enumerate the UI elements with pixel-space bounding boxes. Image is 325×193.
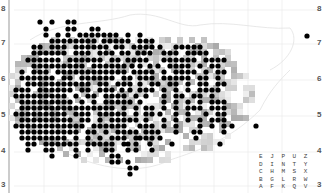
observation-dot	[49, 81, 54, 86]
observation-dot	[43, 69, 48, 74]
observation-dot	[85, 135, 90, 140]
observation-dot	[31, 141, 36, 146]
observation-dot	[37, 135, 42, 140]
observation-dot	[197, 99, 202, 104]
observation-dot	[79, 38, 84, 43]
observation-dot	[43, 81, 48, 86]
observation-dot	[43, 50, 48, 55]
observation-dot	[13, 93, 18, 98]
observation-dot	[173, 87, 178, 92]
observation-dot	[61, 99, 66, 104]
observation-dot	[43, 123, 48, 128]
observation-dot	[19, 99, 24, 104]
observation-dot	[73, 38, 78, 43]
observation-dot	[197, 75, 202, 80]
observation-dot	[147, 63, 152, 68]
observation-dot	[131, 69, 136, 74]
observation-dot	[85, 75, 90, 80]
observation-dot	[61, 135, 66, 140]
observation-dot	[143, 69, 148, 74]
y-tick-label: 5	[1, 110, 5, 119]
observation-dot	[115, 111, 120, 116]
observation-dot	[133, 147, 138, 152]
observation-dot	[109, 153, 114, 158]
observation-dot	[115, 63, 120, 68]
observation-dot	[91, 141, 96, 146]
observation-dot	[179, 57, 184, 62]
observation-dot	[37, 81, 42, 86]
observation-dot	[121, 75, 126, 80]
observation-dot	[221, 105, 226, 110]
observation-dot	[137, 38, 142, 43]
observation-dot	[121, 135, 126, 140]
observation-dot	[73, 141, 78, 146]
observation-dot	[49, 147, 54, 152]
observation-dot	[149, 44, 154, 49]
observation-dot	[185, 63, 190, 68]
observation-dot	[91, 44, 96, 49]
observation-dot	[19, 123, 24, 128]
observation-dot	[67, 38, 72, 43]
observation-dot	[191, 57, 196, 62]
observation-dot	[173, 117, 178, 122]
observation-dot	[37, 50, 42, 55]
observation-dot	[79, 75, 84, 80]
observation-dot	[173, 44, 178, 49]
observation-dot	[109, 141, 114, 146]
observation-dot	[73, 123, 78, 128]
observation-dot	[173, 75, 178, 80]
observation-dot	[61, 141, 66, 146]
observation-dot	[149, 111, 154, 116]
observation-dot	[101, 38, 106, 43]
observation-dot	[143, 44, 148, 49]
observation-dot	[209, 57, 214, 62]
legend-row: C H M S X	[259, 168, 309, 176]
observation-dot	[217, 141, 222, 146]
observation-dot	[185, 44, 190, 49]
observation-dot	[173, 123, 178, 128]
observation-dot	[25, 93, 30, 98]
observation-dot	[209, 63, 214, 68]
observation-dot	[43, 141, 48, 146]
observation-dot	[97, 111, 102, 116]
observation-dot	[115, 153, 120, 158]
observation-dot	[157, 135, 162, 140]
observation-dot	[143, 57, 148, 62]
observation-dot	[37, 99, 42, 104]
observation-dot	[137, 123, 142, 128]
observation-dot	[113, 44, 118, 49]
observation-dot	[61, 129, 66, 134]
observation-dot	[197, 50, 202, 55]
observation-dot	[149, 69, 154, 74]
observation-dot	[79, 81, 84, 86]
observation-dot	[85, 105, 90, 110]
observation-dot	[133, 129, 138, 134]
observation-dot	[215, 57, 220, 62]
observation-dot	[115, 129, 120, 134]
observation-dot	[103, 69, 108, 74]
observation-dot	[49, 153, 54, 158]
observation-dot	[25, 87, 30, 92]
observation-dot	[191, 129, 196, 134]
observation-dot	[149, 87, 154, 92]
observation-dot	[157, 111, 162, 116]
observation-dot	[173, 69, 178, 74]
observation-dot	[127, 171, 132, 176]
observation-dot	[107, 32, 112, 37]
observation-dot	[121, 111, 126, 116]
observation-dot	[133, 111, 138, 116]
observation-dot	[67, 117, 72, 122]
observation-dot	[37, 63, 42, 68]
observation-dot	[97, 57, 102, 62]
observation-dot	[85, 117, 90, 122]
observation-dot	[161, 123, 166, 128]
observation-dot	[109, 57, 114, 62]
observation-dot	[37, 44, 42, 49]
observation-dot	[71, 26, 76, 31]
observation-dot	[304, 33, 309, 38]
observation-dot	[115, 135, 120, 140]
observation-dot	[185, 117, 190, 122]
observation-dot	[191, 93, 196, 98]
observation-dot	[173, 63, 178, 68]
observation-dot	[79, 111, 84, 116]
